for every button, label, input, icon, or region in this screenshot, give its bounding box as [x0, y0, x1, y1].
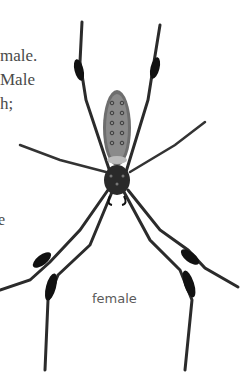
spider-icon — [0, 0, 252, 378]
illustration-caption: female — [92, 291, 137, 306]
